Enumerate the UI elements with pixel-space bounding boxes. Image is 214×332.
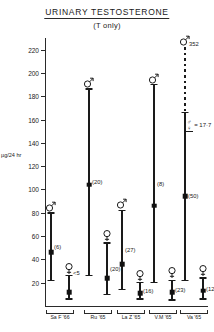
range-cap bbox=[137, 298, 144, 300]
group-label: Ru '65 bbox=[91, 314, 106, 320]
median-marker bbox=[170, 290, 175, 295]
y-tick-label: 40 bbox=[32, 256, 39, 263]
range-cap bbox=[66, 275, 73, 277]
y-tick bbox=[41, 259, 45, 260]
ratio-value: = 17·7 bbox=[193, 122, 212, 128]
group-bracket: Sa F '66 bbox=[46, 310, 74, 317]
group-label: Va '65 bbox=[187, 314, 201, 320]
group-label: V.M '65 bbox=[155, 314, 172, 320]
group-label: Sa F '66 bbox=[50, 314, 69, 320]
median-marker bbox=[105, 276, 110, 281]
range-cap bbox=[151, 282, 158, 284]
median-marker bbox=[152, 203, 157, 208]
sex-ratio-annotation: ♂♀ = 17·7 bbox=[186, 119, 211, 132]
y-tick bbox=[41, 73, 45, 74]
sample-size-label: (50) bbox=[188, 193, 198, 199]
urinary-testosterone-chart: URINARY TESTOSTERONE (T only) 2040608010… bbox=[0, 0, 214, 332]
y-tick bbox=[41, 213, 45, 214]
female-symbol-icon bbox=[103, 230, 112, 242]
range-cap bbox=[104, 294, 111, 296]
range-cap bbox=[200, 298, 207, 300]
group-bracket: Va '65 bbox=[180, 310, 208, 317]
y-tick-label: 200 bbox=[28, 69, 39, 76]
female-symbol-icon bbox=[136, 270, 145, 282]
range-bar bbox=[106, 243, 108, 294]
range-bar bbox=[68, 276, 70, 299]
y-tick-label: 120 bbox=[28, 163, 39, 170]
range-bar bbox=[50, 213, 52, 281]
sample-size-label: (20) bbox=[110, 266, 120, 272]
female-symbol-icon bbox=[199, 265, 208, 277]
sample-size-label: (20) bbox=[92, 179, 102, 185]
median-marker bbox=[138, 291, 143, 296]
dashed-extension bbox=[184, 47, 186, 112]
range-cap bbox=[86, 275, 93, 277]
y-tick-label: 80 bbox=[32, 209, 39, 216]
chart-title: URINARY TESTOSTERONE bbox=[44, 7, 169, 19]
y-tick-label: 180 bbox=[28, 93, 39, 100]
y-tick-label: 140 bbox=[28, 139, 39, 146]
range-cap bbox=[86, 88, 93, 90]
median-marker bbox=[120, 262, 125, 267]
sample-size-label: (16) bbox=[143, 288, 153, 294]
range-cap bbox=[182, 280, 189, 282]
value-label: 352 bbox=[189, 41, 199, 47]
y-tick bbox=[41, 236, 45, 237]
group-bracket: V.M '65 bbox=[149, 310, 177, 317]
chart-subtitle: (T only) bbox=[0, 21, 214, 30]
range-cap bbox=[104, 242, 111, 244]
y-tick bbox=[41, 120, 45, 121]
range-cap bbox=[66, 298, 73, 300]
range-cap bbox=[48, 280, 55, 282]
group-label: La Z '65 bbox=[122, 314, 141, 320]
male-symbol-icon bbox=[46, 200, 57, 212]
median-marker bbox=[183, 194, 188, 199]
y-tick bbox=[41, 283, 45, 284]
range-bar bbox=[153, 85, 155, 283]
y-tick-label: 160 bbox=[28, 116, 39, 123]
male-symbol-icon bbox=[149, 72, 160, 84]
y-tick bbox=[41, 166, 45, 167]
value-label: <5 bbox=[73, 270, 80, 276]
y-tick-label: 220 bbox=[28, 46, 39, 53]
range-cap bbox=[169, 299, 176, 301]
range-cap bbox=[169, 280, 176, 282]
x-axis-line bbox=[45, 306, 208, 307]
y-axis-label: µg/24 hr bbox=[1, 152, 21, 158]
median-marker bbox=[49, 250, 54, 255]
range-cap bbox=[119, 210, 126, 212]
y-tick bbox=[41, 143, 45, 144]
range-cap bbox=[119, 289, 126, 291]
range-bar bbox=[121, 210, 123, 289]
group-bracket: Ru '65 bbox=[84, 310, 112, 317]
range-cap bbox=[48, 212, 55, 214]
y-tick-label: 100 bbox=[28, 186, 39, 193]
ratio-denominator: ♀ bbox=[187, 125, 192, 131]
sample-size-label: (23) bbox=[175, 287, 185, 293]
median-marker bbox=[67, 290, 72, 295]
y-tick-label: 60 bbox=[32, 233, 39, 240]
sample-size-label: (8) bbox=[157, 181, 164, 187]
median-marker bbox=[87, 183, 92, 188]
sample-size-label: (6) bbox=[54, 244, 61, 250]
y-tick-label: 20 bbox=[32, 279, 39, 286]
sample-size-label: (12) bbox=[206, 286, 214, 292]
range-cap bbox=[151, 84, 158, 86]
group-bracket: La Z '65 bbox=[117, 310, 145, 317]
range-cap bbox=[200, 277, 207, 279]
female-symbol-icon bbox=[168, 267, 177, 279]
range-cap bbox=[137, 282, 144, 284]
y-tick bbox=[41, 96, 45, 97]
y-tick bbox=[41, 189, 45, 190]
male-symbol-icon bbox=[84, 76, 95, 88]
sample-size-label: (27) bbox=[125, 247, 135, 253]
male-symbol-icon bbox=[117, 197, 128, 209]
y-tick bbox=[41, 50, 45, 51]
median-marker bbox=[201, 289, 206, 294]
